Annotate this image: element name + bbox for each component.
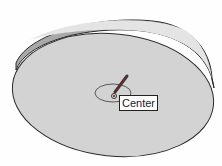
disk-model[interactable] <box>0 0 222 166</box>
inference-tooltip: Center <box>119 95 158 111</box>
center-point-icon <box>113 95 115 97</box>
modeling-viewport[interactable]: Center <box>0 0 222 166</box>
